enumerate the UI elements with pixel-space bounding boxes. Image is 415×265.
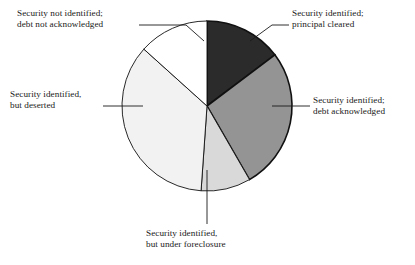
pie-label-under-foreclosure: Security identified, but under foreclosu… [146, 228, 226, 251]
pie-label-under-foreclosure-line1: Security identified, [146, 228, 226, 239]
pie-chart-figure: Security not identified; debt not acknow… [0, 0, 415, 265]
pie-label-principal-cleared: Security identified; principal cleared [292, 8, 364, 31]
pie-label-not-identified: Security not identified; debt not acknow… [17, 8, 103, 31]
pie-label-deserted-line2: but deserted [10, 100, 81, 111]
pie-label-debt-acknowledged-line2: debt acknowledged [313, 106, 385, 117]
pie-chart-svg [0, 0, 415, 265]
pie-label-under-foreclosure-line2: but under foreclosure [146, 239, 226, 250]
pie-label-debt-acknowledged-line1: Security identified; [313, 95, 385, 106]
pie-label-not-identified-line2: debt not acknowledged [17, 19, 103, 30]
pie-label-not-identified-line1: Security not identified; [17, 8, 103, 19]
pie-slices [122, 21, 292, 191]
pie-label-deserted: Security identified, but deserted [10, 89, 81, 112]
pie-label-principal-cleared-line2: principal cleared [292, 19, 364, 30]
pie-label-principal-cleared-line1: Security identified; [292, 8, 364, 19]
pie-label-debt-acknowledged: Security identified; debt acknowledged [313, 95, 385, 118]
pie-label-deserted-line1: Security identified, [10, 89, 81, 100]
